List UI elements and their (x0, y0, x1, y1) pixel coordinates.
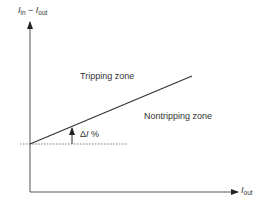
tripping-characteristic-line (30, 76, 192, 144)
nontripping-zone-label: Nontripping zone (144, 111, 212, 121)
x-axis-label: Iout (241, 185, 253, 196)
y-label-op: − (26, 5, 36, 15)
tripping-zone-label: Tripping zone (80, 71, 134, 81)
x-label-sub: out (244, 189, 253, 196)
delta-i-label: ΔI % (80, 129, 99, 139)
diagram-canvas (0, 0, 265, 206)
y-axis-label: Iin − Iout (18, 5, 47, 16)
y-label-sub2: out (38, 9, 47, 16)
delta-suffix: % (89, 129, 100, 139)
